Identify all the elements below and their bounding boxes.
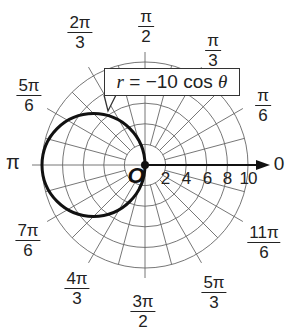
angle-label-5pi-over-6: 5π6 xyxy=(16,77,41,114)
angle-label-7pi-over-6: 7π6 xyxy=(15,222,40,259)
grid-spoke xyxy=(47,109,127,155)
angle-label-4pi-over-3: 4π3 xyxy=(64,270,89,307)
grid-spoke xyxy=(46,170,126,191)
grid-spoke xyxy=(165,138,245,159)
grid-spoke xyxy=(150,185,171,265)
radial-tick-6: 6 xyxy=(203,169,211,189)
radial-tick-4: 4 xyxy=(182,169,190,189)
radial-tick-10: 10 xyxy=(240,169,257,189)
callout-pointer xyxy=(104,95,116,111)
grid-spoke xyxy=(155,183,201,263)
equation-callout: r = −10 cos θ xyxy=(104,68,240,96)
angle-label-pi-over-6: π6 xyxy=(255,87,271,124)
grid-spoke xyxy=(47,175,127,221)
angle-label-5pi-over-3: 5π3 xyxy=(201,274,226,311)
angle-label-pi-over-3: π3 xyxy=(205,32,221,69)
equation-theta: θ xyxy=(218,71,227,92)
grid-spoke xyxy=(160,92,218,150)
grid-spoke xyxy=(118,185,139,265)
radial-tick-2: 2 xyxy=(161,169,169,189)
angle-label-pi: π xyxy=(6,151,20,174)
arrow-head-icon xyxy=(256,160,270,170)
grid-spoke xyxy=(163,109,243,155)
angle-label-3pi-over-2: 3π2 xyxy=(130,293,155,330)
equation-lhs: r xyxy=(117,71,124,92)
origin-label: O xyxy=(127,163,144,189)
equation-middle: = −10 cos xyxy=(124,71,218,92)
polar-axis-label: 0 xyxy=(274,153,285,175)
angle-label-2pi-over-3: 2π3 xyxy=(67,14,92,51)
angle-label-11pi-over-6: 11π6 xyxy=(247,224,280,261)
grid-spoke xyxy=(46,138,126,159)
grid-spoke xyxy=(89,183,135,263)
radial-tick-8: 8 xyxy=(223,169,231,189)
angle-label-pi-over-2: π2 xyxy=(138,8,154,45)
